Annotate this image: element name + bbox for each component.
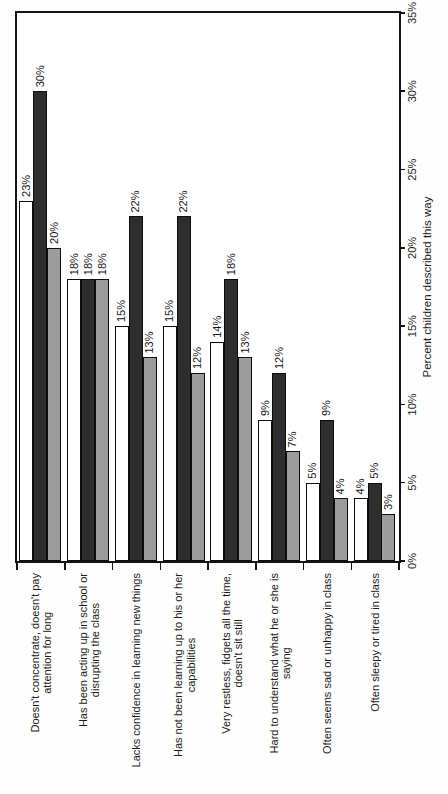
value-axis-tick-label: 0% (406, 553, 418, 569)
category-label-line: Very restless, fidgets all the time, (219, 573, 232, 734)
category-axis-tick (112, 563, 114, 570)
bar-value-label: 30% (34, 65, 47, 87)
bar-dark (177, 217, 191, 562)
value-axis-tick (399, 12, 405, 14)
bar-dark (368, 483, 382, 561)
bar-value-label: 20% (48, 222, 61, 244)
bar-dark (320, 420, 334, 561)
category-axis-tick (398, 563, 400, 570)
category-label: Doesn't concentrate, doesn't payattentio… (28, 573, 53, 733)
value-axis-tick (399, 325, 405, 327)
bar-value-label: 5% (306, 463, 319, 479)
bar-gray (381, 514, 395, 561)
bar-dark (129, 217, 143, 562)
bar-value-label: 18% (225, 253, 238, 275)
category-axis-tick (303, 563, 305, 570)
bar-value-label: 12% (191, 347, 204, 369)
bar-value-label: 22% (129, 190, 142, 212)
bar-white (19, 201, 33, 561)
category-label: Lacks confidence in learning new things (130, 573, 143, 767)
bar-value-label: 9% (320, 400, 333, 416)
bar-white (163, 326, 177, 561)
bar-gray (286, 451, 300, 561)
bar-white (354, 498, 368, 561)
category-axis-tick (351, 563, 353, 570)
bar-value-label: 4% (354, 479, 367, 495)
value-axis-tick-label: 30% (406, 80, 418, 102)
value-axis-tick-label: 35% (406, 2, 418, 24)
value-axis-tick-label: 20% (406, 237, 418, 259)
category-label-line: saying (280, 573, 293, 753)
category-label-line: Lacks confidence in learning new things (130, 573, 143, 767)
category-label: Often sleepy or tired in class (369, 573, 382, 712)
bar-value-label: 15% (115, 300, 128, 322)
category-axis-tick (64, 563, 66, 570)
bar-value-label: 13% (239, 331, 252, 353)
category-label-line: Often seems sad or unhappy in class (321, 573, 334, 754)
bar-value-label: 7% (286, 432, 299, 448)
bar-value-label: 23% (20, 175, 33, 197)
value-axis-title: Percent children described this way (421, 197, 433, 378)
bar-gray (334, 498, 348, 561)
category-label: Very restless, fidgets all the time,does… (219, 573, 244, 734)
category-axis-tick (255, 563, 257, 570)
bar-value-label: 4% (334, 479, 347, 495)
value-axis-tick (399, 560, 405, 562)
bar-gray (143, 358, 157, 562)
value-axis-tick-label: 5% (406, 475, 418, 491)
bar-white (258, 420, 272, 561)
bar-gray (95, 279, 109, 561)
value-axis-tick (399, 404, 405, 406)
bar-gray (238, 358, 252, 562)
bar-white (67, 279, 81, 561)
value-axis-tick (399, 91, 405, 93)
bar-value-label: 18% (96, 253, 109, 275)
bar-value-label: 14% (211, 316, 224, 338)
category-label-line: Has been acting up in school or (76, 573, 89, 727)
value-axis-tick-label: 25% (406, 159, 418, 181)
category-label: Often seems sad or unhappy in class (321, 573, 334, 754)
category-label-line: doesn't sit still (232, 573, 245, 734)
category-label: Hard to understand what he or she issayi… (267, 573, 292, 753)
bar-white (115, 326, 129, 561)
bar-gray (47, 248, 61, 561)
bar-dark (81, 279, 95, 561)
value-axis-tick (399, 247, 405, 249)
value-axis-tick-label: 10% (406, 393, 418, 415)
category-label: Has not been learning up to his or herca… (172, 573, 197, 757)
category-label-line: disrupting the class (89, 573, 102, 727)
value-axis-tick-label: 15% (406, 315, 418, 337)
value-axis-tick (399, 482, 405, 484)
bar-gray (191, 373, 205, 561)
bar-value-label: 9% (259, 400, 272, 416)
bar-value-label: 3% (382, 494, 395, 510)
bar-chart-figure: 23%18%15%15%14%9%5%4%30%18%22%22%18%12%9… (0, 0, 448, 794)
bar-value-label: 13% (143, 331, 156, 353)
category-label-line: capabilities (184, 573, 197, 757)
bar-value-label: 18% (68, 253, 81, 275)
bar-value-label: 18% (82, 253, 95, 275)
bar-dark (272, 373, 286, 561)
bar-value-label: 5% (368, 463, 381, 479)
category-label-line: attention for long (41, 573, 54, 733)
category-label-line: Often sleepy or tired in class (369, 573, 382, 712)
category-axis-tick (16, 563, 18, 570)
category-axis-tick (160, 563, 162, 570)
scanned-chart-page: 23%18%15%15%14%9%5%4%30%18%22%22%18%12%9… (0, 0, 448, 794)
bar-value-label: 12% (273, 347, 286, 369)
bar-white (306, 483, 320, 561)
bar-dark (224, 279, 238, 561)
category-label-line: Has not been learning up to his or her (172, 573, 185, 757)
category-label: Has been acting up in school ordisruptin… (76, 573, 101, 727)
category-label-line: Doesn't concentrate, doesn't pay (28, 573, 41, 733)
value-axis-tick (399, 169, 405, 171)
category-axis-tick (207, 563, 209, 570)
bar-value-label: 22% (177, 190, 190, 212)
bar-white (210, 342, 224, 561)
bar-dark (33, 91, 47, 561)
plot-area: 23%18%15%15%14%9%5%4%30%18%22%22%18%12%9… (15, 11, 401, 563)
bar-value-label: 15% (163, 300, 176, 322)
category-label-line: Hard to understand what he or she is (267, 573, 280, 753)
